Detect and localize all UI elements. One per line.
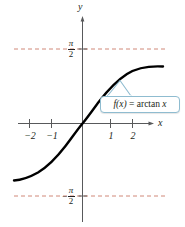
x-tick-label-1: 1 [105, 131, 117, 141]
x-axis-label: x [158, 118, 162, 128]
x-tick-label-minus-2: −2 [24, 131, 36, 141]
callout-paren-x: (x) [116, 99, 127, 109]
arctan-graph-figure: y x −2 −1 1 2 π 2 − π 2 f(x) = arctan x [0, 0, 185, 227]
neg-pi-over-2-numerator: π [68, 186, 75, 195]
x-tick-label-2: 2 [127, 131, 139, 141]
neg-pi-over-2-fraction: π 2 [68, 186, 75, 206]
y-tick-label-pi-over-2: π 2 [67, 39, 75, 59]
neg-pi-over-2-denominator: 2 [68, 197, 75, 206]
callout-variable: x [162, 99, 166, 109]
y-axis-label: y [78, 2, 82, 12]
x-axis-arrowhead [149, 122, 155, 126]
x-tick-label-minus-1: −1 [46, 131, 58, 141]
y-tick-label-neg-pi-over-2: − π 2 [62, 186, 75, 206]
plot-canvas [0, 0, 185, 227]
function-callout-box: f(x) = arctan x [100, 96, 180, 113]
y-axis-arrowhead [81, 16, 85, 22]
function-callout-label: f(x) = arctan x [113, 100, 166, 110]
pi-over-2-denominator: 2 [68, 50, 75, 59]
callout-equals: = arctan [127, 99, 163, 109]
pi-over-2-fraction: π 2 [68, 39, 75, 59]
pi-over-2-numerator: π [68, 39, 75, 48]
